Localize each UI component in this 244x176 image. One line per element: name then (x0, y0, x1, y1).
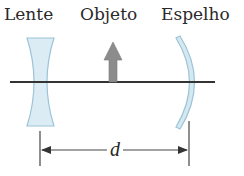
arrowhead-left-icon (41, 146, 51, 154)
lens-label: Lente (4, 4, 53, 24)
optics-diagram: Lente Objeto Espelho d (0, 0, 244, 176)
object-label: Objeto (80, 4, 137, 24)
arrowhead-right-icon (178, 146, 188, 154)
mirror-label: Espelho (161, 4, 230, 24)
distance-label: d (107, 138, 123, 160)
object-arrow-icon (104, 42, 122, 82)
